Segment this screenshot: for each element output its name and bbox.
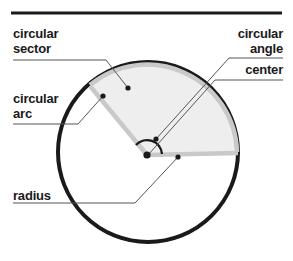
center-point-dot <box>143 151 150 158</box>
radius-horizontal <box>147 153 238 155</box>
sector-leader-dot <box>125 85 130 90</box>
label-circular-sector: circular sector <box>13 26 58 56</box>
label-circular-angle: circular angle <box>238 26 283 56</box>
radius-leader-dot <box>175 154 180 159</box>
label-radius: radius <box>13 188 51 203</box>
angle-leader-dot <box>153 136 158 141</box>
label-circular-arc: circular arc <box>13 91 58 121</box>
arc-leader-dot <box>100 93 105 98</box>
circle-parts-diagram: circular sector circular arc radius circ… <box>0 0 293 261</box>
label-center: center <box>245 62 283 77</box>
